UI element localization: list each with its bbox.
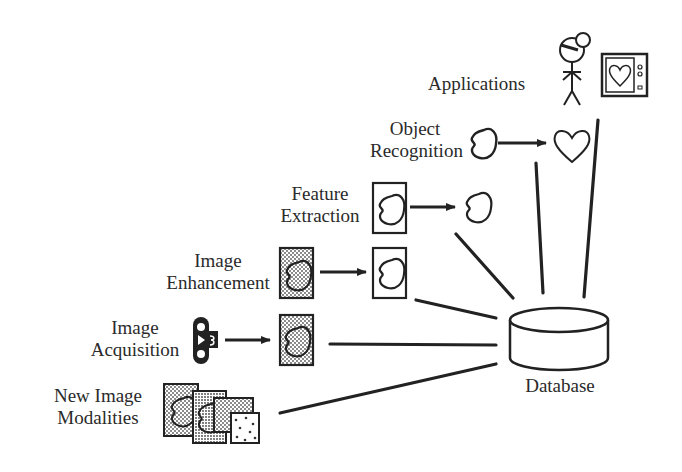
label-object-recognition-line1: Object [370, 118, 460, 140]
dotted-framed-blob-icon [280, 315, 313, 365]
blob-outline-icon [467, 193, 492, 222]
label-feature-extraction-line2: Extraction [272, 205, 368, 227]
label-object-recognition-line2: Recognition [370, 140, 460, 162]
label-applications-text: Applications [428, 73, 525, 94]
label-database: Database [515, 375, 605, 397]
label-new-image-modalities-line2: Modalities [38, 407, 158, 429]
line-acquisition-to-database [330, 344, 496, 345]
label-image-enhancement-line2: Enhancement [162, 272, 274, 294]
label-image-enhancement: Image Enhancement [162, 250, 274, 294]
label-image-acquisition-line1: Image [83, 317, 187, 339]
cylinder-database-icon [510, 308, 608, 370]
line-feature-extraction-to-database [456, 234, 513, 298]
framed-blob-icon [373, 183, 406, 233]
label-database-text: Database [525, 375, 595, 396]
blob-outline-icon [472, 129, 497, 158]
line-object-recognition-to-database [536, 163, 543, 293]
framed-blob-icon [373, 248, 406, 298]
label-applications: Applications [428, 73, 525, 95]
label-feature-extraction: Feature Extraction [272, 183, 368, 227]
label-new-image-modalities-line1: New Image [38, 385, 158, 407]
line-modalities-to-database [280, 364, 496, 413]
label-object-recognition: Object Recognition [370, 118, 460, 162]
line-enhancement-to-database [416, 300, 496, 318]
label-new-image-modalities: New Image Modalities [38, 385, 158, 429]
monitor-heart-icon [602, 54, 647, 96]
label-feature-extraction-line1: Feature [272, 183, 368, 205]
stick-figure-doctor-icon [560, 33, 590, 105]
heart-outline-icon [555, 131, 590, 162]
pipeline-arrows [225, 143, 546, 340]
scanner-device-icon [193, 317, 218, 364]
dotted-framed-blob-icon [280, 248, 313, 298]
stacked-images-icon [164, 384, 259, 443]
label-image-acquisition: Image Acquisition [83, 317, 187, 361]
label-image-acquisition-line2: Acquisition [83, 339, 187, 361]
label-image-enhancement-line1: Image [162, 250, 274, 272]
